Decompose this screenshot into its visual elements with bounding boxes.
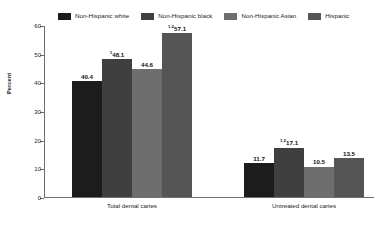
bar[interactable]	[132, 69, 162, 197]
bar[interactable]	[162, 33, 192, 197]
legend-swatch-icon	[58, 13, 71, 20]
bar-value-label: 44.6	[141, 61, 153, 68]
bar[interactable]	[304, 167, 334, 197]
y-tick: 0	[44, 198, 45, 199]
legend-swatch-icon	[141, 13, 154, 20]
plot-area: 0102030405060 40.4148.144.61,257.1Total …	[44, 26, 374, 198]
bar-value-label: 1,217.1	[280, 139, 298, 146]
legend-label: Non-Hispanic Asian	[241, 12, 296, 20]
bar-group-bars: 11.71,217.110.513.5	[244, 26, 364, 197]
bar-cell: 13.5	[334, 26, 364, 197]
legend-label: Non-Hispanic black	[158, 12, 212, 20]
y-tick-label: 0	[38, 195, 41, 201]
legend-item: Hispanic	[308, 12, 349, 20]
bar[interactable]	[72, 81, 102, 197]
y-tick-label: 60	[34, 23, 41, 29]
legend-swatch-icon	[224, 13, 237, 20]
bar-cell: 148.1	[102, 26, 132, 197]
y-tick-label: 10	[34, 166, 41, 172]
y-tick-label: 30	[34, 109, 41, 115]
y-axis-title: Percent	[6, 73, 12, 94]
bar-cell: 40.4	[72, 26, 102, 197]
bar-value-label: 148.1	[110, 51, 125, 58]
x-axis-category-label: Total dental caries	[72, 202, 192, 210]
legend-item: Non-Hispanic Asian	[224, 12, 296, 20]
bar[interactable]	[274, 148, 304, 197]
legend-swatch-icon	[308, 13, 321, 20]
bar[interactable]	[102, 59, 132, 197]
bar-cell: 10.5	[304, 26, 334, 197]
legend-item: Non-Hispanic white	[58, 12, 129, 20]
y-tick-label: 50	[34, 52, 41, 58]
y-tick-label: 40	[34, 80, 41, 86]
bar-value-label: 40.4	[81, 73, 93, 80]
legend-label: Non-Hispanic white	[75, 12, 129, 20]
y-tick: 40	[44, 83, 45, 84]
bar-cell: 1,257.1	[162, 26, 192, 197]
y-tick: 50	[44, 55, 45, 56]
x-axis-category-label: Untreated dental caries	[244, 202, 364, 210]
bar-cell: 11.7	[244, 26, 274, 197]
legend-item: Non-Hispanic black	[141, 12, 212, 20]
bar-chart: Non-Hispanic whiteNon-Hispanic blackNon-…	[0, 0, 382, 228]
bar-cell: 44.6	[132, 26, 162, 197]
bar-group-bars: 40.4148.144.61,257.1	[72, 26, 192, 197]
y-tick-label: 20	[34, 138, 41, 144]
bar-value-label: 10.5	[313, 158, 325, 165]
chart-legend: Non-Hispanic whiteNon-Hispanic blackNon-…	[58, 9, 378, 23]
y-tick: 20	[44, 141, 45, 142]
bar[interactable]	[334, 158, 364, 197]
y-tick: 10	[44, 169, 45, 170]
legend-label: Hispanic	[325, 12, 349, 20]
bar[interactable]	[244, 163, 274, 197]
y-tick: 60	[44, 26, 45, 27]
y-tick: 30	[44, 112, 45, 113]
bar-value-label: 13.5	[343, 150, 355, 157]
bar-value-label: 1,257.1	[168, 25, 186, 32]
x-axis-line	[44, 197, 374, 198]
bar-value-label: 11.7	[253, 155, 265, 162]
bar-cell: 1,217.1	[274, 26, 304, 197]
